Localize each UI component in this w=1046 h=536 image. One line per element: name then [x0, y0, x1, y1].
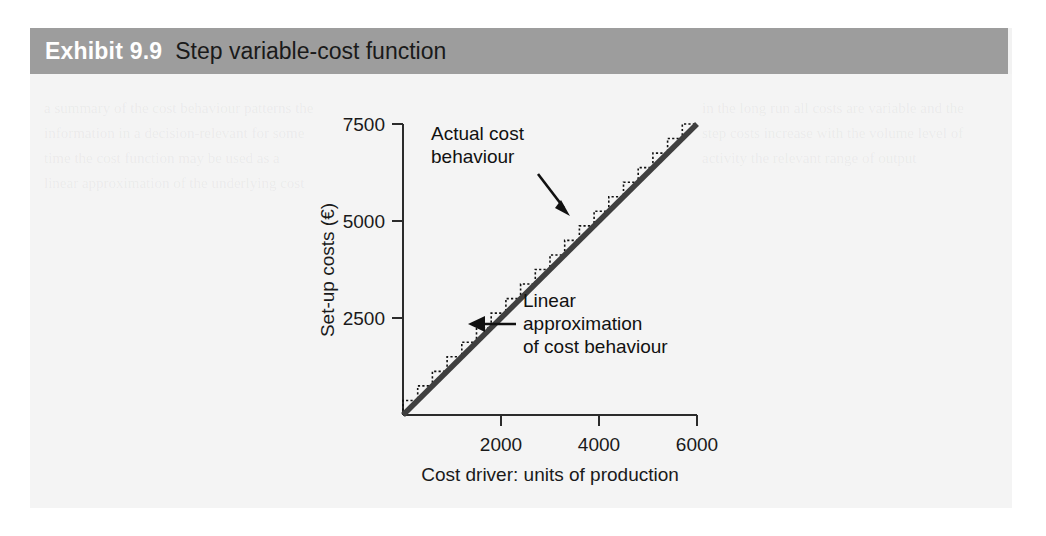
annotation-actual-line1: Actual cost [431, 123, 525, 144]
y-tick-label-5000: 5000 [343, 211, 385, 232]
exhibit-title: Step variable-cost function [175, 38, 446, 65]
x-axis-title: Cost driver: units of production [421, 464, 679, 485]
annotation-linear-line3: of cost behaviour [523, 336, 668, 357]
x-tick-labels: 2000 4000 6000 [480, 434, 718, 455]
exhibit-body: a summary of the cost behaviour patterns… [30, 74, 1012, 508]
step-variable-cost-chart: 7500 5000 2500 2000 4000 6000 Set-up cos… [30, 74, 1012, 508]
linear-approximation-line [403, 124, 697, 415]
y-tick-label-7500: 7500 [343, 114, 385, 135]
exhibit-header-bar: Exhibit 9.9 Step variable-cost function [30, 28, 1008, 74]
annotation-actual-cost-behaviour: Actual cost behaviour [431, 123, 570, 216]
annotation-actual-line2: behaviour [431, 146, 515, 167]
y-axis-title: Set-up costs (€) [317, 203, 338, 337]
exhibit-number: Exhibit 9.9 [45, 38, 162, 65]
x-tick-label-6000: 6000 [676, 434, 718, 455]
y-tick-labels: 7500 5000 2500 [343, 114, 385, 329]
x-tick-label-2000: 2000 [480, 434, 522, 455]
annotation-linear-line1: Linear [523, 290, 576, 311]
chart-svg: 7500 5000 2500 2000 4000 6000 Set-up cos… [30, 74, 1012, 508]
x-tick-label-4000: 4000 [578, 434, 620, 455]
y-tick-label-2500: 2500 [343, 308, 385, 329]
annotation-actual-arrow [538, 174, 570, 216]
annotation-linear-approximation: Linear approximation of cost behaviour [468, 290, 668, 357]
annotation-linear-line2: approximation [523, 313, 642, 334]
